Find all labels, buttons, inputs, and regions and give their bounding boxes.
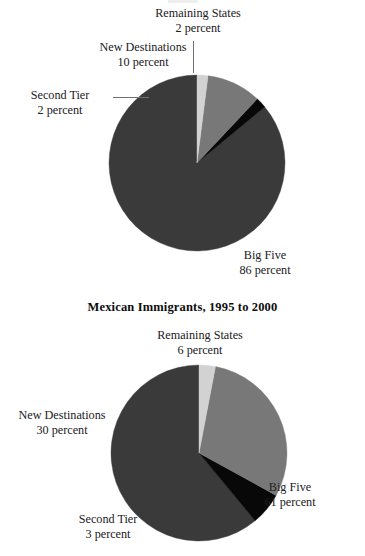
callout-label-big-five-bottom: Big Five [230, 480, 350, 495]
callout-big-five-top: Big Five 86 percent [205, 248, 325, 277]
callout-value-new-destinations-top: 10 percent [58, 55, 228, 70]
leader-line-second-tier-top [113, 97, 149, 98]
callout-value-remaining-states-bottom: 6 percent [110, 343, 290, 358]
callout-new-destinations-bottom: New Destinations 30 percent [2, 408, 122, 437]
callout-second-tier-top: Second Tier 2 percent [10, 88, 110, 117]
callout-big-five-bottom: Big Five 61 percent [230, 480, 350, 509]
callout-label-new-destinations-top: New Destinations [58, 40, 228, 55]
callout-label-remaining-states-bottom: Remaining States [110, 328, 290, 343]
callout-value-big-five-top: 86 percent [205, 263, 325, 278]
callout-label-big-five-top: Big Five [205, 248, 325, 263]
callout-value-second-tier-top: 2 percent [10, 103, 110, 118]
callout-new-destinations-top: New Destinations 10 percent [58, 40, 228, 69]
callout-second-tier-bottom: Second Tier 3 percent [48, 512, 168, 541]
chart-block-top: Remaining States 2 percent New Destinati… [0, 0, 365, 290]
chart-block-bottom: Mexican Immigrants, 1995 to 2000 Remaini… [0, 290, 365, 556]
callout-value-big-five-bottom: 61 percent [230, 495, 350, 510]
callout-remaining-states-top: Remaining States 2 percent [118, 6, 278, 35]
callout-label-second-tier-bottom: Second Tier [48, 512, 168, 527]
callout-label-second-tier-top: Second Tier [10, 88, 110, 103]
callout-value-second-tier-bottom: 3 percent [48, 527, 168, 542]
callout-label-remaining-states-top: Remaining States [118, 6, 278, 21]
callout-remaining-states-bottom: Remaining States 6 percent [110, 328, 290, 357]
pie-chart-figure: Remaining States 2 percent New Destinati… [0, 0, 365, 556]
callout-value-new-destinations-bottom: 30 percent [2, 423, 122, 438]
callout-value-remaining-states-top: 2 percent [118, 21, 278, 36]
callout-label-new-destinations-bottom: New Destinations [2, 408, 122, 423]
